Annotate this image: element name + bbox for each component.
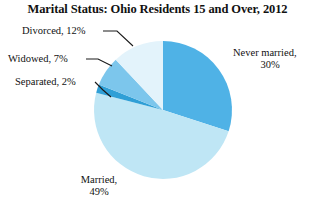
pie-label-never-married-line1: Never married, [233, 47, 297, 58]
pie-label-married-line2: 49% [68, 186, 130, 198]
pie-label-separated-text: Separated, 2% [15, 76, 76, 87]
pie-label-divorced: Divorced, 12% [22, 25, 86, 37]
pie-chart-figure: Marital Status: Ohio Residents 15 and Ov… [0, 0, 315, 208]
pie-label-married: Married, 49% [68, 174, 130, 198]
leader-line-divorced [103, 31, 133, 46]
pie-label-never-married: Never married, 30% [233, 47, 307, 71]
pie-label-widowed-text: Widowed, 7% [8, 53, 68, 64]
pie-label-widowed: Widowed, 7% [8, 53, 68, 65]
pie-label-divorced-text: Divorced, 12% [22, 25, 86, 36]
leader-line-widowed [86, 59, 112, 66]
pie-label-married-line1: Married, [81, 174, 117, 185]
pie-label-never-married-line2: 30% [233, 59, 307, 71]
pie-label-separated: Separated, 2% [15, 76, 76, 88]
